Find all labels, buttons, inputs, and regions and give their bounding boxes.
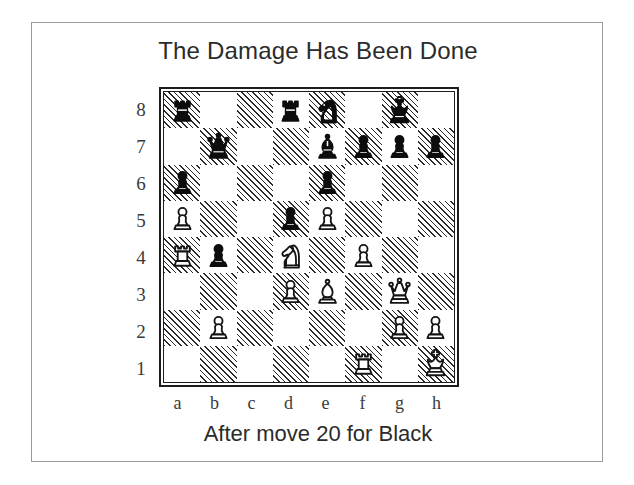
piece-white-rook-f1[interactable] [345,346,381,382]
piece-white-pawn-a5[interactable] [164,201,200,237]
board-square-a6[interactable] [164,165,200,201]
piece-black-pawn-e6[interactable] [309,165,345,201]
figure-page: The Damage Has Been Done 87654321 [0,0,634,485]
board-square-b7[interactable] [200,128,236,164]
board-square-e4[interactable] [309,237,345,273]
piece-black-pawn-g7[interactable] [382,128,418,164]
file-label-f: f [344,393,381,415]
board-square-b8[interactable] [200,92,236,128]
board-square-f7[interactable] [345,128,381,164]
piece-white-rook-a4[interactable] [164,237,200,273]
board-square-g8[interactable] [382,92,418,128]
piece-black-pawn-a6[interactable] [164,165,200,201]
board-square-f1[interactable] [345,346,381,382]
board-square-c2[interactable] [237,310,273,346]
file-label-c: c [233,393,270,415]
board-square-e2[interactable] [309,310,345,346]
piece-black-queen-b7[interactable] [200,128,236,164]
rank-label-2: 2 [127,313,155,350]
piece-white-pawn-g2[interactable] [382,310,418,346]
piece-black-bishop-e7[interactable] [309,128,345,164]
board-square-b1[interactable] [200,346,236,382]
rank-label-4: 4 [127,239,155,276]
piece-white-pawn-d3[interactable] [273,273,309,309]
piece-black-pawn-h7[interactable] [418,128,454,164]
rank-label-5: 5 [127,202,155,239]
piece-white-pawn-f4[interactable] [345,237,381,273]
board-square-h8[interactable] [418,92,454,128]
board-square-c8[interactable] [237,92,273,128]
board-square-g2[interactable] [382,310,418,346]
board-square-a4[interactable] [164,237,200,273]
board-square-f2[interactable] [345,310,381,346]
board-square-e7[interactable] [309,128,345,164]
piece-white-pawn-b2[interactable] [200,310,236,346]
board-square-g7[interactable] [382,128,418,164]
piece-white-pawn-h2[interactable] [418,310,454,346]
file-label-b: b [196,393,233,415]
board-square-e5[interactable] [309,201,345,237]
board-square-h7[interactable] [418,128,454,164]
board-square-f4[interactable] [345,237,381,273]
board-square-d5[interactable] [273,201,309,237]
board-square-d8[interactable] [273,92,309,128]
board-square-e8[interactable] [309,92,345,128]
board-square-e6[interactable] [309,165,345,201]
board-square-b2[interactable] [200,310,236,346]
board-square-a3[interactable] [164,273,200,309]
board-square-a5[interactable] [164,201,200,237]
board-square-a1[interactable] [164,346,200,382]
board-square-e3[interactable] [309,273,345,309]
board-square-d4[interactable] [273,237,309,273]
piece-black-rook-d8[interactable] [273,92,309,128]
board-square-a2[interactable] [164,310,200,346]
board-square-c4[interactable] [237,237,273,273]
board-square-d7[interactable] [273,128,309,164]
rank-label-8: 8 [127,91,155,128]
board-square-g5[interactable] [382,201,418,237]
board-square-f6[interactable] [345,165,381,201]
board-square-f8[interactable] [345,92,381,128]
piece-white-bishop-e3[interactable] [309,273,345,309]
board-square-g3[interactable] [382,273,418,309]
file-label-g: g [381,393,418,415]
board-square-h1[interactable] [418,346,454,382]
board-square-b4[interactable] [200,237,236,273]
piece-black-king-g8[interactable] [382,92,418,128]
board-square-h5[interactable] [418,201,454,237]
board-square-c1[interactable] [237,346,273,382]
piece-black-knight-e8[interactable] [309,92,345,128]
board-square-a7[interactable] [164,128,200,164]
piece-white-pawn-e5[interactable] [309,201,345,237]
board-square-g1[interactable] [382,346,418,382]
board-square-d2[interactable] [273,310,309,346]
board-square-d1[interactable] [273,346,309,382]
board-square-d6[interactable] [273,165,309,201]
board-square-h6[interactable] [418,165,454,201]
board-square-b3[interactable] [200,273,236,309]
board-square-c7[interactable] [237,128,273,164]
piece-black-pawn-d5[interactable] [273,201,309,237]
piece-black-pawn-b4[interactable] [200,237,236,273]
piece-white-king-h1[interactable] [418,346,454,382]
board-square-f5[interactable] [345,201,381,237]
board-square-b5[interactable] [200,201,236,237]
board-square-d3[interactable] [273,273,309,309]
board-square-b6[interactable] [200,165,236,201]
piece-black-rook-a8[interactable] [164,92,200,128]
board-square-h4[interactable] [418,237,454,273]
board-square-c5[interactable] [237,201,273,237]
board-square-c6[interactable] [237,165,273,201]
chess-board [163,91,455,383]
board-square-g6[interactable] [382,165,418,201]
piece-white-queen-g3[interactable] [382,273,418,309]
board-square-c3[interactable] [237,273,273,309]
board-square-h2[interactable] [418,310,454,346]
board-square-a8[interactable] [164,92,200,128]
piece-white-knight-d4[interactable] [273,237,309,273]
board-square-e1[interactable] [309,346,345,382]
board-square-h3[interactable] [418,273,454,309]
board-square-f3[interactable] [345,273,381,309]
board-square-g4[interactable] [382,237,418,273]
piece-black-pawn-f7[interactable] [345,128,381,164]
